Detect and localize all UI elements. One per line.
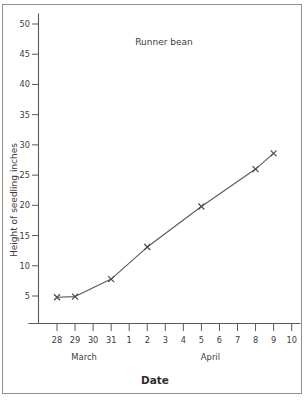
x-axis-ticks [57,324,292,332]
series-markers-runner-bean [54,150,277,300]
x-group-label: March [71,352,97,362]
data-point-marker [253,166,259,172]
x-tick-label: 31 [106,335,116,345]
chart-page: 5101520253035404550 2829303112345678910 … [0,0,306,401]
runner-bean-line-chart: 5101520253035404550 2829303112345678910 … [0,0,306,401]
x-tick-label: 8 [253,335,258,345]
y-axis-ticks [32,24,39,296]
x-tick-label: 1 [127,335,132,345]
y-tick-label: 25 [20,170,30,180]
y-axis-tick-labels: 5101520253035404550 [20,19,30,301]
x-axis-tick-labels: 2829303112345678910 [52,335,297,345]
chart-title: Runner bean [135,37,193,47]
y-tick-label: 35 [20,110,30,120]
x-tick-label: 3 [163,335,168,345]
x-tick-label: 29 [70,335,80,345]
x-axis-group-labels: MarchApril [71,352,220,362]
x-tick-label: 2 [145,335,150,345]
data-point-marker [198,204,204,210]
y-tick-label: 20 [20,200,30,210]
series-line-runner-bean [57,153,274,297]
y-tick-label: 50 [20,19,30,29]
data-point-marker [144,244,150,250]
y-axis-title: Height of seedling inches [9,143,19,257]
x-tick-label: 4 [181,335,186,345]
y-tick-label: 45 [20,49,30,59]
y-tick-label: 30 [20,140,30,150]
y-tick-label: 10 [20,261,30,271]
x-tick-label: 6 [217,335,222,345]
x-tick-label: 5 [199,335,204,345]
y-tick-label: 40 [20,79,30,89]
x-tick-label: 30 [88,335,98,345]
x-tick-label: 9 [271,335,276,345]
y-tick-label: 15 [20,231,30,241]
data-point-marker [108,276,114,282]
x-group-label: April [201,352,220,362]
x-axis-title: Date [141,374,169,386]
y-tick-label: 5 [25,291,30,301]
x-tick-label: 28 [52,335,62,345]
x-tick-label: 10 [286,335,296,345]
x-tick-label: 7 [235,335,240,345]
data-point-marker [271,150,277,156]
